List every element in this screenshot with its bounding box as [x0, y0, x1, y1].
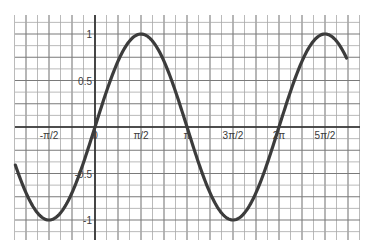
x-tick-label: 3π/2 [223, 130, 244, 141]
x-tick-label: π/2 [133, 130, 149, 141]
x-tick-label: -π/2 [40, 130, 59, 141]
x-tick-label: 5π/2 [315, 130, 336, 141]
y-tick-label: 0.5 [78, 76, 92, 87]
y-tick-label: 1 [86, 29, 92, 40]
sine-chart: -π/20π/2π3π/22π5π/210.5-0.5-1 [0, 0, 370, 249]
y-tick-label: -1 [83, 215, 92, 226]
